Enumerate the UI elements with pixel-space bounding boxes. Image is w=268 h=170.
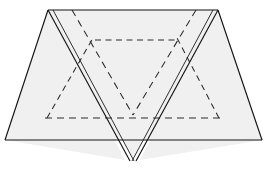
fold-diagram-container <box>0 0 268 170</box>
origami-fold-figure <box>0 0 268 170</box>
